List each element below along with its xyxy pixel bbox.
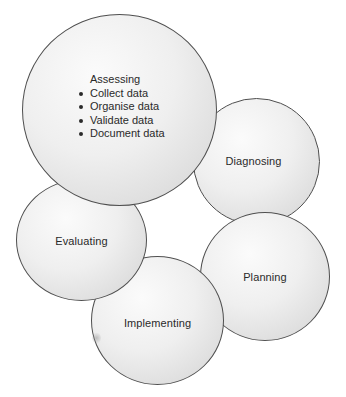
bullet-icon [79, 119, 83, 123]
evaluating-label: Evaluating [55, 235, 107, 248]
assessing-item-list: Collect data Organise data Validate data… [79, 87, 165, 141]
list-item-text: Validate data [90, 114, 153, 126]
bullet-icon [79, 132, 83, 136]
list-item: Collect data [79, 87, 165, 101]
diagnosing-label: Diagnosing [225, 155, 281, 168]
scan-smudge [92, 332, 101, 344]
assessing-circle: Assessing Collect data Organise data Val… [22, 14, 217, 206]
bullet-icon [79, 105, 83, 109]
planning-label: Planning [243, 271, 287, 284]
list-item-text: Document data [90, 127, 165, 139]
list-item: Validate data [79, 114, 165, 128]
list-item: Organise data [79, 100, 165, 114]
list-item: Document data [79, 127, 165, 141]
bullet-icon [79, 92, 83, 96]
assessing-content: Assessing Collect data Organise data Val… [79, 73, 165, 141]
assessing-title: Assessing [79, 73, 165, 87]
implementing-label: Implementing [124, 317, 191, 330]
nursing-process-cycle-diagram: Planning Diagnosing Implementing Evaluat… [0, 0, 346, 397]
list-item-text: Organise data [90, 100, 159, 112]
list-item-text: Collect data [90, 87, 148, 99]
